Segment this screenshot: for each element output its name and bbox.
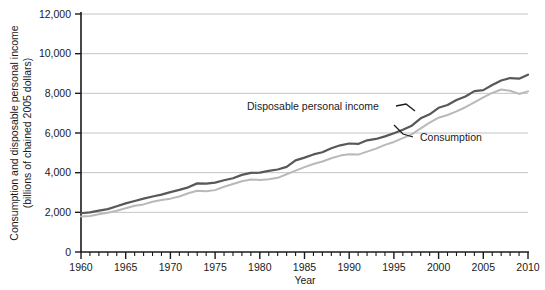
x-axis-title: Year bbox=[294, 274, 316, 286]
y-tick-label-6000: 6,000 bbox=[45, 127, 71, 139]
y-axis-tick-labels: 02,0004,0006,0008,00010,00012,000 bbox=[39, 8, 71, 258]
x-tick-label-1960: 1960 bbox=[69, 261, 93, 273]
y-tick-label-12000: 12,000 bbox=[39, 8, 71, 20]
x-tick-label-1965: 1965 bbox=[114, 261, 138, 273]
y-tick-label-8000: 8,000 bbox=[45, 87, 71, 99]
y-tick-label-2000: 2,000 bbox=[45, 206, 71, 218]
x-tick-label-2005: 2005 bbox=[472, 261, 496, 273]
x-tick-label-1985: 1985 bbox=[293, 261, 317, 273]
x-tick-label-2010: 2010 bbox=[516, 261, 540, 273]
y-axis-title-line2: (billions of chained 2005 dollars) bbox=[21, 58, 33, 209]
y-tick-label-4000: 4,000 bbox=[45, 166, 71, 178]
annotation-disposable-personal-income: Disposable personal income bbox=[247, 100, 379, 112]
x-tick-label-2000: 2000 bbox=[427, 261, 451, 273]
x-axis-ticks bbox=[81, 252, 528, 259]
x-tick-label-1975: 1975 bbox=[203, 261, 227, 273]
chart-figure: 02,0004,0006,0008,00010,00012,000 196019… bbox=[0, 0, 545, 290]
y-tick-label-10000: 10,000 bbox=[39, 47, 71, 59]
annotation-consumption: Consumption bbox=[420, 131, 482, 143]
x-tick-label-1990: 1990 bbox=[338, 261, 362, 273]
x-tick-label-1970: 1970 bbox=[159, 261, 183, 273]
y-tick-label-0: 0 bbox=[65, 246, 71, 258]
x-tick-label-1980: 1980 bbox=[248, 261, 272, 273]
x-axis-tick-labels: 1960196519701975198019851990199520002005… bbox=[69, 261, 540, 273]
line-chart: 02,0004,0006,0008,00010,00012,000 196019… bbox=[0, 0, 545, 290]
x-tick-label-1995: 1995 bbox=[382, 261, 406, 273]
y-axis-title-line1: Consumption and disposable personal inco… bbox=[8, 25, 20, 241]
